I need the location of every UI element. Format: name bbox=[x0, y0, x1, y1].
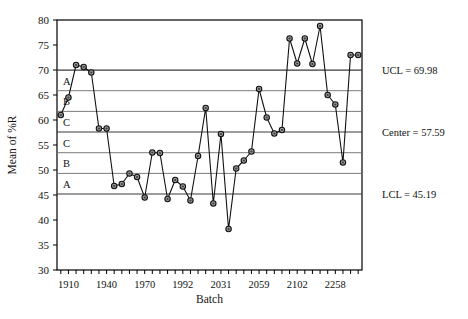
zone-label-C-2: C bbox=[63, 117, 70, 128]
y-tick-label-0: 30 bbox=[38, 264, 50, 276]
data-point-center-32 bbox=[304, 37, 306, 39]
data-point-center-15 bbox=[174, 179, 176, 181]
y-tick-label-6: 60 bbox=[38, 114, 50, 126]
y-tick-label-4: 50 bbox=[38, 164, 50, 176]
data-point-center-29 bbox=[281, 129, 283, 131]
data-point-center-10 bbox=[136, 176, 138, 178]
y-tick-label-5: 55 bbox=[38, 139, 50, 151]
x-tick-label-5: 2059 bbox=[249, 279, 270, 290]
data-point-center-38 bbox=[349, 54, 351, 56]
y-tick-label-2: 40 bbox=[38, 214, 50, 226]
data-point-center-14 bbox=[166, 198, 168, 200]
data-point-center-28 bbox=[273, 132, 275, 134]
data-point-center-18 bbox=[197, 155, 199, 157]
data-point-center-12 bbox=[151, 151, 153, 153]
data-point-center-24 bbox=[243, 159, 245, 161]
x-tick-label-0: 1910 bbox=[58, 279, 79, 290]
data-point-center-19 bbox=[205, 107, 207, 109]
data-point-center-30 bbox=[288, 37, 290, 39]
zone-label-A-0: A bbox=[63, 76, 71, 87]
control-chart: 3035404550556065707580191019401970199220… bbox=[0, 0, 468, 319]
y-tick-label-9: 75 bbox=[38, 39, 50, 51]
data-point-center-37 bbox=[342, 161, 344, 163]
data-point-center-39 bbox=[357, 54, 359, 56]
data-point-center-36 bbox=[334, 103, 336, 105]
data-point-center-26 bbox=[258, 88, 260, 90]
zone-label-B-4: B bbox=[63, 158, 70, 169]
data-point-center-21 bbox=[220, 133, 222, 135]
data-point-center-13 bbox=[159, 152, 161, 154]
plot-frame bbox=[57, 20, 362, 270]
zone-label-A-5: A bbox=[63, 179, 71, 190]
data-point-center-9 bbox=[128, 172, 130, 174]
x-tick-label-1: 1940 bbox=[96, 279, 117, 290]
y-tick-label-3: 45 bbox=[38, 189, 50, 201]
lcl-label: LCL = 45.19 bbox=[382, 189, 436, 200]
y-tick-label-1: 35 bbox=[38, 239, 50, 251]
data-point-center-17 bbox=[189, 199, 191, 201]
y-tick-label-8: 70 bbox=[38, 64, 50, 76]
data-point-center-22 bbox=[227, 228, 229, 230]
x-axis-title: Batch bbox=[196, 293, 223, 305]
data-point-center-7 bbox=[113, 185, 115, 187]
y-tick-label-10: 80 bbox=[38, 14, 50, 26]
data-point-center-2 bbox=[75, 64, 77, 66]
y-axis-title: Mean of %R bbox=[6, 115, 18, 174]
data-point-center-27 bbox=[266, 116, 268, 118]
x-tick-label-6: 2102 bbox=[287, 279, 308, 290]
data-point-center-20 bbox=[212, 202, 214, 204]
data-point-center-8 bbox=[121, 183, 123, 185]
x-tick-label-7: 2258 bbox=[325, 279, 346, 290]
data-point-center-1 bbox=[67, 96, 69, 98]
y-tick-label-7: 65 bbox=[38, 89, 50, 101]
data-point-center-6 bbox=[105, 127, 107, 129]
data-point-center-33 bbox=[311, 63, 313, 65]
data-point-center-31 bbox=[296, 62, 298, 64]
data-point-center-34 bbox=[319, 25, 321, 27]
ucl-label: UCL = 69.98 bbox=[382, 65, 437, 76]
x-tick-label-4: 2031 bbox=[210, 279, 231, 290]
zone-label-C-3: C bbox=[63, 138, 70, 149]
data-point-center-3 bbox=[83, 66, 85, 68]
center-label: Center = 57.59 bbox=[382, 127, 445, 138]
data-point-center-16 bbox=[182, 185, 184, 187]
data-point-center-0 bbox=[60, 114, 62, 116]
chart-container: 3035404550556065707580191019401970199220… bbox=[0, 0, 468, 319]
data-point-center-35 bbox=[327, 94, 329, 96]
x-tick-label-3: 1992 bbox=[172, 279, 193, 290]
x-tick-label-2: 1970 bbox=[134, 279, 155, 290]
data-point-center-4 bbox=[90, 71, 92, 73]
data-point-center-5 bbox=[98, 127, 100, 129]
data-point-center-25 bbox=[250, 150, 252, 152]
data-point-center-23 bbox=[235, 167, 237, 169]
data-point-center-11 bbox=[144, 196, 146, 198]
